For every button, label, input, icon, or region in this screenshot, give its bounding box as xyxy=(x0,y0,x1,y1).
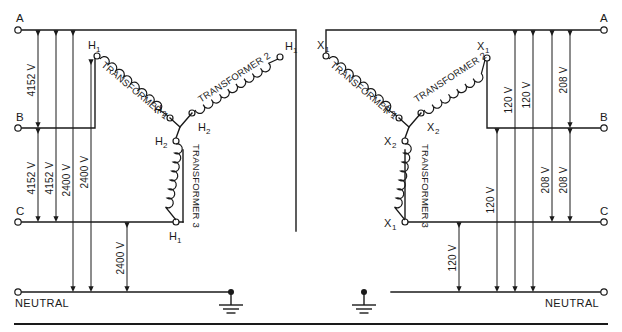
terminal-h2-t3-left[interactable] xyxy=(173,138,179,144)
wye-centre-leg-left xyxy=(176,127,180,138)
earth-ground-icon-left xyxy=(219,292,243,313)
transformer-label-3-left: TRANSFORMER 3 xyxy=(191,144,202,228)
dim-label-l-ac: 4152 V xyxy=(44,161,55,194)
dim-label-r-ac: 208 V xyxy=(540,166,551,193)
winding-t3-right xyxy=(395,144,412,220)
terminal-label-x2-t3-right: X 2 xyxy=(384,135,397,150)
terminal-label-x1-t2-right-main: X xyxy=(477,40,485,52)
terminal-label-h1-t2-left-sub: 1 xyxy=(293,46,298,55)
dim-label-l-bc: 4152 V xyxy=(26,161,37,194)
terminal-label-h2-t1-left-main: H xyxy=(154,103,162,115)
winding-t3-left xyxy=(166,144,183,220)
bus-label-a-right: A xyxy=(600,12,608,24)
dim-label-r-cn: 120 V xyxy=(447,244,458,271)
terminal-label-h1-t1-left: H 1 xyxy=(88,39,101,54)
dim-label-r-an1: 120 V xyxy=(503,86,514,113)
wye-centre-right xyxy=(399,113,421,127)
terminal-label-x1-t3-right-sub: 1 xyxy=(392,223,397,232)
bus-label-b-right: B xyxy=(600,111,608,123)
dim-label-l-ab: 4152 V xyxy=(26,63,37,96)
bus-label-c-right: C xyxy=(600,205,608,217)
terminal-label-x2-t2-right-sub: 2 xyxy=(435,127,440,136)
terminal-label-h2-t2-left-main: H xyxy=(198,121,206,133)
earth-ground-icon-right xyxy=(352,292,376,313)
bus-label-b-left: B xyxy=(16,111,24,123)
terminal-label-x1-t1-right-sub: 1 xyxy=(325,45,330,54)
terminal-a-right[interactable] xyxy=(601,27,607,33)
terminal-neutral-right[interactable] xyxy=(601,289,607,295)
neutral-label-right: NEUTRAL xyxy=(545,297,599,309)
bus-label-c-left: C xyxy=(16,205,24,217)
terminal-label-x1-t1-right-main: X xyxy=(317,39,325,51)
terminal-c-right[interactable] xyxy=(601,219,607,225)
terminal-label-x1-t3-right-main: X xyxy=(384,217,392,229)
dim-label-r-bn: 120 V xyxy=(485,186,496,213)
terminal-label-h1-t3-left-main: H xyxy=(169,230,177,242)
terminal-label-h1-t3-left-sub: 1 xyxy=(177,236,182,245)
terminal-label-h1-t1-left-main: H xyxy=(88,39,96,51)
terminal-a-left[interactable] xyxy=(15,27,21,33)
terminal-label-x1-t2-right-sub: 1 xyxy=(485,46,490,55)
dim-label-r-bc: 208 V xyxy=(558,166,569,193)
dim-label-l-bn: 2400 V xyxy=(79,155,90,188)
terminal-label-h2-t3-left-main: H xyxy=(155,135,163,147)
terminal-label-x2-t3-right-main: X xyxy=(384,135,392,147)
transformer-3-left xyxy=(166,138,183,225)
dim-label-l-an: 2400 V xyxy=(61,163,72,196)
dim-label-l-cn: 2400 V xyxy=(115,241,126,274)
wye-centre-leg-right xyxy=(405,127,409,138)
transformer-connection-diagram: A B C NEUTRAL 4152 V 4152 V 4152 V 2400 … xyxy=(0,0,622,332)
wye-centre-left xyxy=(170,113,192,127)
diagram-canvas: A B C NEUTRAL 4152 V 4152 V 4152 V 2400 … xyxy=(0,0,622,332)
terminal-label-x2-t2-right: X 2 xyxy=(427,121,440,136)
terminal-b-left[interactable] xyxy=(15,125,21,131)
terminal-b-right[interactable] xyxy=(601,125,607,131)
bus-label-a-left: A xyxy=(16,12,24,24)
terminal-label-x2-t3-right-sub: 2 xyxy=(392,141,397,150)
terminal-label-h2-t1-left-sub: 2 xyxy=(162,109,167,118)
terminal-label-x2-t1-right-sub: 2 xyxy=(391,109,396,118)
terminal-label-x2-t1-right-main: X xyxy=(383,103,391,115)
terminal-label-h2-t3-left: H 2 xyxy=(155,135,168,150)
terminal-x2-t3-right[interactable] xyxy=(402,138,408,144)
terminal-label-h2-t3-left-sub: 2 xyxy=(163,141,168,150)
terminal-label-h2-t2-left-sub: 2 xyxy=(206,127,211,136)
neutral-label-left: NEUTRAL xyxy=(15,297,69,309)
dim-label-r-ab: 208 V xyxy=(558,66,569,93)
terminal-label-h1-t3-left: H 1 xyxy=(169,230,182,245)
terminal-c-left[interactable] xyxy=(15,219,21,225)
terminal-label-h1-t1-left-sub: 1 xyxy=(96,45,101,54)
terminal-neutral-left[interactable] xyxy=(15,289,21,295)
terminal-label-x1-t3-right: X 1 xyxy=(384,217,397,232)
winding-t2-left xyxy=(195,59,278,113)
dim-label-r-an2: 120 V xyxy=(521,81,532,108)
terminal-label-h2-t2-left: H 2 xyxy=(198,121,211,136)
transformer-label-3-right: TRANSFORMER 3 xyxy=(420,144,431,228)
terminal-label-h1-t2-left-main: H xyxy=(285,40,293,52)
transformer-label-2-left: TRANSFORMER 2 xyxy=(196,50,272,105)
bus-line-a-right xyxy=(326,30,604,55)
transformer-3-right xyxy=(395,138,412,225)
terminal-label-x2-t2-right-main: X xyxy=(427,121,435,133)
terminal-label-x1-t1-right: X 1 xyxy=(317,39,330,54)
transformer-2-left xyxy=(189,54,283,116)
